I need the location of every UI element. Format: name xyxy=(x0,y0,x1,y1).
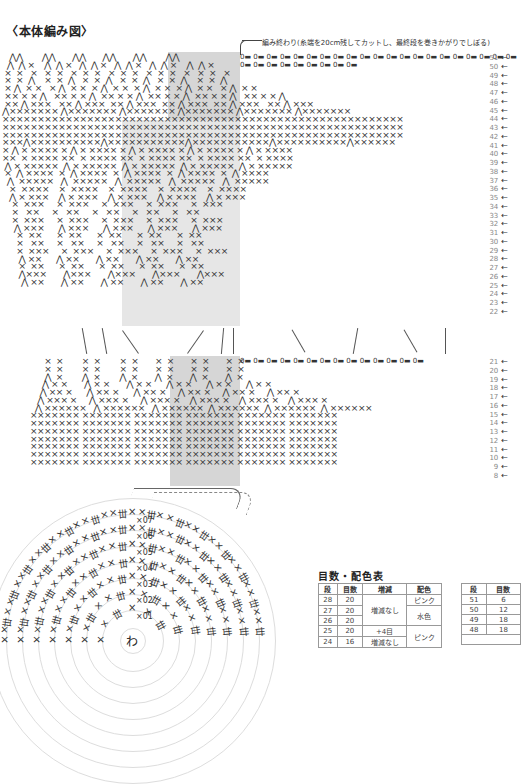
arrow-left-icon: ← xyxy=(501,357,508,366)
arrow-left-icon: ← xyxy=(501,202,508,211)
arrow-left-icon: ← xyxy=(501,106,508,115)
round-label: ×04 xyxy=(136,564,153,573)
connector-line xyxy=(233,328,234,354)
row-number: 22← xyxy=(484,308,508,317)
arrow-left-icon: ← xyxy=(501,401,508,410)
arrow-left-icon: ← xyxy=(501,237,508,246)
round-label: ×06 xyxy=(136,532,153,541)
arrow-left-icon: ← xyxy=(501,62,508,71)
upper-chain-column: 0▬ 0▬ 0▬ 0▬ 0▬ 0▬ 0▬ 0▬ 0▬ 0▬ 0▬ 0▬ 0▬ 0… xyxy=(240,54,517,70)
col-header-color: 配色 xyxy=(407,584,442,595)
arrow-left-icon: ← xyxy=(501,254,508,263)
table-row: 51 6 xyxy=(462,595,521,605)
round-stitch: × xyxy=(47,635,58,643)
round-label: ×02 xyxy=(136,596,153,605)
arrow-left-icon: ← xyxy=(501,392,508,401)
round-label: ×07 xyxy=(136,516,153,525)
lower-chain-column: 0▬ 0▬ 0▬ 0▬ 0▬ 0▬ 0▬ 0▬ 0▬ 0▬ 0▬ 0▬ 0▬ 0… xyxy=(240,358,424,366)
row-number: 8← xyxy=(484,472,508,481)
round-stitch: × xyxy=(0,635,10,643)
arrow-left-icon: ← xyxy=(501,149,508,158)
round-stitch: × xyxy=(1,606,14,617)
arrow-left-icon: ← xyxy=(501,462,508,471)
table-row: 50 12 xyxy=(462,605,521,615)
arrow-left-icon: ← xyxy=(501,123,508,132)
table-row: 49 18 xyxy=(462,615,521,625)
upper-row-numbers: 51←50←49←48←47←46←45←44←43←42←41←40←39←3… xyxy=(484,54,514,317)
connector-line xyxy=(187,330,204,354)
arrow-left-icon: ← xyxy=(501,471,508,480)
round-stitch: × xyxy=(253,615,265,625)
arrow-left-icon: ← xyxy=(501,97,508,106)
round-stitch: × xyxy=(31,635,42,643)
arrow-left-icon: ← xyxy=(501,71,508,80)
arrow-left-icon: ← xyxy=(501,418,508,427)
round-stitch: × xyxy=(108,507,118,519)
finish-note-line xyxy=(242,40,262,41)
table-row xyxy=(462,635,521,645)
connector-line xyxy=(122,330,139,354)
col-header-count: 目数 xyxy=(337,584,362,595)
round-stitch: × xyxy=(63,635,74,643)
magic-ring-label: わ xyxy=(126,632,138,649)
arrow-left-icon: ← xyxy=(501,219,508,228)
round-stitch: 丗 xyxy=(117,538,129,554)
round-stitch: 丗 xyxy=(253,626,269,637)
arrow-left-icon: ← xyxy=(501,307,508,316)
round-stitch: 丗 xyxy=(0,616,15,628)
arrow-left-icon: ← xyxy=(501,228,508,237)
arrow-left-icon: ← xyxy=(501,184,508,193)
round-stitch: × xyxy=(98,508,109,521)
round-stitch: 丗 xyxy=(237,626,253,637)
arrow-left-icon: ← xyxy=(501,427,508,436)
arrow-left-icon: ← xyxy=(501,211,508,220)
arrow-left-icon: ← xyxy=(501,158,508,167)
lower-row-numbers: 21←20←19←18←17←16←15←14←13←12←11←10←9←8← xyxy=(484,358,514,481)
connector-line xyxy=(353,328,358,354)
arrow-left-icon: ← xyxy=(501,263,508,272)
col-header-row: 段 xyxy=(319,584,338,595)
round-stitch: 丗 xyxy=(220,626,236,638)
arrow-left-icon: ← xyxy=(501,132,508,141)
table-row: 28 20 増減なし ピンク xyxy=(319,595,442,606)
arrow-left-icon: ← xyxy=(501,298,508,307)
arrow-left-icon: ← xyxy=(501,383,508,392)
round-label: ×05 xyxy=(136,548,153,557)
round-label: ×01 xyxy=(136,612,153,621)
arrow-left-icon: ← xyxy=(501,79,508,88)
arrow-left-icon: ← xyxy=(501,176,508,185)
diagram-title: 〈本体編み図〉 xyxy=(6,22,94,39)
arrow-left-icon: ← xyxy=(501,193,508,202)
arrow-left-icon: ← xyxy=(501,141,508,150)
arrow-left-icon: ← xyxy=(501,375,508,384)
arrow-left-icon: ← xyxy=(501,272,508,281)
round-stitch: 丗 xyxy=(204,625,220,637)
table-title: 目数・配色表 xyxy=(318,568,384,583)
arrow-left-icon: ← xyxy=(501,436,508,445)
round-stitch: × xyxy=(108,523,118,535)
arrow-left-icon: ← xyxy=(501,410,508,419)
connector-line xyxy=(292,329,306,352)
round-stitch: 丗 xyxy=(116,570,128,587)
arrow-left-icon: ← xyxy=(501,167,508,176)
table-row: 48 18 xyxy=(462,625,521,635)
round-stitch: × xyxy=(95,635,106,643)
connector-line xyxy=(445,328,446,354)
round-stitch: 丗 xyxy=(14,616,31,628)
round-stitch: × xyxy=(15,635,26,643)
stitch-count-table-left: 段 目数 増減 配色 28 20 増減なし ピンク 27 20 水色 26 20… xyxy=(318,583,442,648)
connector-line xyxy=(404,329,418,352)
col-header-row: 段 xyxy=(462,584,487,595)
connector-line xyxy=(221,328,224,354)
stitch-count-table-right: 段 目数 51 6 50 12 49 18 48 18 xyxy=(461,583,521,645)
finish-note: 編み終わり(糸端を20cm残してカットし、最終段を巻きかがりでしぼる) xyxy=(262,37,490,47)
col-header-change: 増減 xyxy=(363,584,407,595)
arrow-left-icon: ← xyxy=(501,445,508,454)
round-stitch: × xyxy=(79,635,90,643)
arrow-left-icon: ← xyxy=(501,88,508,97)
table-row: 25 20 +4目 ピンク xyxy=(319,626,442,637)
round-stitch: × xyxy=(236,615,248,625)
arrow-left-icon: ← xyxy=(501,366,508,375)
arrow-left-icon: ← xyxy=(501,53,508,62)
col-header-count: 目数 xyxy=(486,584,520,595)
